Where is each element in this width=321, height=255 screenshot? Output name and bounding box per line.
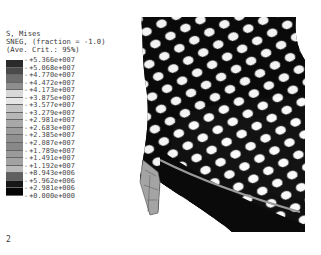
step-label: 2 (6, 235, 11, 244)
fem-model-view[interactable] (0, 0, 321, 255)
lattice-mesh (130, 10, 320, 250)
